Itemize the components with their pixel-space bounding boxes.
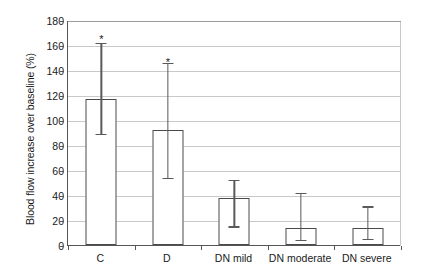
x-axis-tick-label: D xyxy=(163,252,171,264)
bar-chart-figure: Blood flow increase over baseline (%) 02… xyxy=(0,0,422,278)
error-bar xyxy=(167,63,168,178)
x-axis-tick-label: DN severe xyxy=(342,252,392,264)
x-axis-tick-label: DN mild xyxy=(215,252,252,264)
error-bar xyxy=(234,180,235,226)
error-bar xyxy=(367,206,368,239)
bar-group xyxy=(201,20,268,245)
x-axis-tick-label: DN moderate xyxy=(269,252,331,264)
error-cap-lower xyxy=(362,239,373,240)
error-cap-upper xyxy=(296,193,307,194)
x-axis-tick-label: C xyxy=(97,252,105,264)
y-axis-tick-mark xyxy=(60,246,64,247)
y-axis-tick-mark xyxy=(60,221,64,222)
y-axis-tick-mark xyxy=(60,46,64,47)
bar-group xyxy=(268,20,335,245)
y-axis-tick-mark xyxy=(60,121,64,122)
y-axis-tick-mark xyxy=(60,71,64,72)
error-bar xyxy=(101,43,102,134)
x-axis-tick-mark xyxy=(334,246,335,250)
y-axis-tick-labels: 020406080100120140160180 xyxy=(28,0,64,278)
bar-group: * xyxy=(135,20,202,245)
y-axis-tick-mark xyxy=(60,21,64,22)
y-axis-tick-mark xyxy=(60,96,64,97)
error-bar xyxy=(300,193,301,241)
x-axis-tick-labels: CDDN mildDN moderateDN severe xyxy=(67,252,400,272)
error-cap-lower xyxy=(162,178,173,179)
y-axis-tick-mark xyxy=(60,146,64,147)
error-cap-lower xyxy=(229,226,240,227)
y-axis-tick-mark xyxy=(60,171,64,172)
plot-area: ** xyxy=(67,21,400,246)
error-cap-upper xyxy=(229,180,240,181)
significance-asterisk: * xyxy=(166,58,170,66)
x-axis-tick-mark xyxy=(135,246,136,250)
bar-group xyxy=(334,20,401,245)
x-axis-tick-mark xyxy=(401,246,402,250)
y-axis-tick-mark xyxy=(60,196,64,197)
x-axis-tick-mark xyxy=(68,246,69,250)
error-cap-upper xyxy=(362,206,373,207)
error-cap-lower xyxy=(96,134,107,135)
significance-asterisk: * xyxy=(99,35,103,43)
error-cap-lower xyxy=(296,240,307,241)
x-axis-tick-mark xyxy=(201,246,202,250)
x-axis-tick-mark xyxy=(268,246,269,250)
bar-group: * xyxy=(68,20,135,245)
